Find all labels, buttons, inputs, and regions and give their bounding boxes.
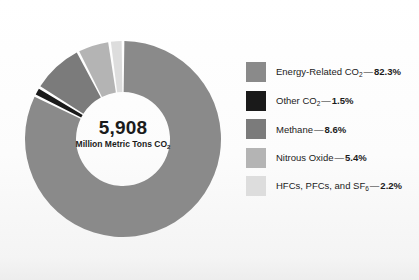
legend-item-nitrous-oxide[interactable]: Nitrous Oxide—5.4% [246, 148, 416, 168]
legend-item-methane[interactable]: Methane—8.6% [246, 119, 416, 139]
legend-swatch-energy-related-co2 [246, 62, 266, 82]
legend-percent: 8.6% [324, 124, 346, 135]
legend-label-text: Nitrous Oxide [276, 152, 334, 163]
legend-percent: 2.2% [380, 180, 402, 191]
legend-item-energy-related-co2[interactable]: Energy-Related CO2—82.3% [246, 62, 416, 82]
legend-label-subscript: 2 [317, 100, 321, 107]
legend-label-text: Other CO [276, 95, 317, 106]
legend-label-other-co2: Other CO2—1.5% [276, 95, 353, 107]
donut-svg [23, 39, 223, 239]
legend-item-other-co2[interactable]: Other CO2—1.5% [246, 91, 416, 111]
legend-dash: — [334, 152, 346, 163]
legend-item-hfcs-pfcs-sf6[interactable]: HFCs, PFCs, and SF6—2.2% [246, 176, 416, 196]
legend-dash: — [363, 66, 375, 77]
legend-label-energy-related-co2: Energy-Related CO2—82.3% [276, 66, 401, 78]
donut-chart-figure: 5,908 Million Metric Tons CO2 Energy-Rel… [0, 0, 419, 280]
legend-dash: — [313, 124, 325, 135]
legend-label-text: HFCs, PFCs, and SF [276, 180, 365, 191]
legend-label-text: Methane [276, 124, 313, 135]
legend-swatch-hfcs-pfcs-sf6 [246, 176, 266, 196]
legend-percent: 1.5% [332, 95, 354, 106]
legend-label-subscript: 6 [365, 185, 369, 192]
donut-chart [23, 39, 223, 239]
legend-dash: — [320, 95, 332, 106]
donut-slices [25, 41, 221, 237]
legend-percent: 82.3% [374, 66, 401, 77]
legend-swatch-other-co2 [246, 91, 266, 111]
legend-percent: 5.4% [345, 152, 367, 163]
legend-label-hfcs-pfcs-sf6: HFCs, PFCs, and SF6—2.2% [276, 180, 402, 192]
legend-swatch-nitrous-oxide [246, 148, 266, 168]
chart-legend: Energy-Related CO2—82.3%Other CO2—1.5%Me… [246, 62, 416, 205]
legend-swatch-methane [246, 119, 266, 139]
legend-label-methane: Methane—8.6% [276, 124, 346, 135]
legend-label-subscript: 2 [359, 71, 363, 78]
legend-label-text: Energy-Related CO [276, 66, 359, 77]
legend-label-nitrous-oxide: Nitrous Oxide—5.4% [276, 152, 367, 163]
legend-dash: — [369, 180, 381, 191]
